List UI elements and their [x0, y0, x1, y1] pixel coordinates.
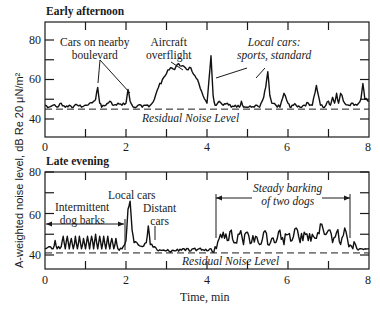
- leader-line: [256, 68, 265, 78]
- annotation-distant-cars: Distant cars: [143, 202, 176, 228]
- x-tick-2-bottom: 2: [123, 273, 129, 288]
- x-tick-6-top: 6: [284, 140, 290, 155]
- annotation-steady-barking: Steady barking of two dogs: [253, 182, 322, 208]
- y-tick-40-top: 40: [29, 112, 41, 127]
- noise-trace: [45, 56, 369, 108]
- y-tick-80-top: 80: [29, 33, 41, 48]
- annotation-local-cars-sports: Local cars: sports, standard: [237, 36, 311, 62]
- x-tick-8-top: 8: [365, 140, 371, 155]
- leader-line: [216, 68, 247, 78]
- panel-title-late-evening: Late evening: [46, 155, 109, 167]
- y-tick-60-top: 60: [29, 72, 41, 87]
- x-tick-4-top: 4: [204, 140, 210, 155]
- annotation-local-cars: Local cars: [108, 189, 156, 202]
- x-tick-0-bottom: 0: [42, 273, 48, 288]
- residual-noise-label-bottom: Residual Noise Level: [182, 255, 279, 267]
- x-tick-8-bottom: 8: [365, 273, 371, 288]
- x-tick-2-top: 2: [123, 140, 129, 155]
- y-tick-40-bottom: 40: [29, 248, 41, 263]
- x-tick-0-top: 0: [42, 140, 48, 155]
- y-tick-80-bottom: 80: [29, 165, 41, 180]
- y-axis-label: A-weighted noise level, dB Re 20 μN/m²: [13, 73, 25, 268]
- annotation-intermittent-dog-barks: Intermittent dog barks: [55, 201, 109, 227]
- panel-title-early-afternoon: Early afternoon: [46, 5, 124, 17]
- annotation-cars-boulevard: Cars on nearby boulevard: [60, 36, 130, 62]
- x-tick-6-bottom: 6: [284, 273, 290, 288]
- y-tick-60-bottom: 60: [29, 208, 41, 223]
- annotation-aircraft-overflight: Aircraft overflight: [146, 36, 191, 62]
- leader-line: [100, 60, 130, 93]
- leader-line: [98, 60, 100, 83]
- x-tick-4-bottom: 4: [204, 273, 210, 288]
- residual-noise-label-top: Residual Noise Level: [142, 112, 239, 124]
- x-axis-label: Time, min: [180, 290, 230, 305]
